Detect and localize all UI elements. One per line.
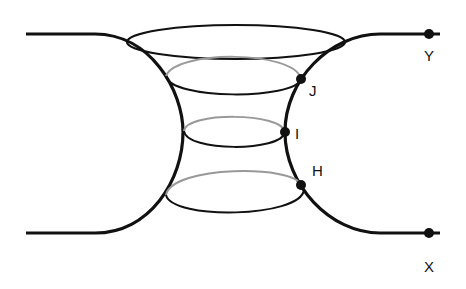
- diagram-canvas: J I H Y X: [0, 0, 466, 289]
- j-ellipse-front: [166, 76, 301, 94]
- label-x: X: [424, 258, 434, 275]
- left-boundary-curve: [26, 34, 183, 233]
- h-ellipse-front: [166, 190, 304, 212]
- point-i: [280, 127, 290, 137]
- label-j: J: [309, 82, 317, 99]
- j-ellipse-back: [166, 57, 301, 79]
- right-boundary-curve: [285, 34, 440, 233]
- point-h: [296, 180, 306, 190]
- label-h: H: [312, 162, 323, 179]
- label-i: I: [295, 125, 299, 142]
- i-ellipse-front: [184, 131, 285, 147]
- top-ellipse: [127, 25, 345, 59]
- i-ellipse-back: [184, 117, 285, 132]
- h-ellipse-back: [166, 171, 301, 195]
- point-j: [296, 74, 306, 84]
- point-x: [424, 228, 434, 238]
- point-y: [424, 29, 434, 39]
- label-y: Y: [424, 47, 434, 64]
